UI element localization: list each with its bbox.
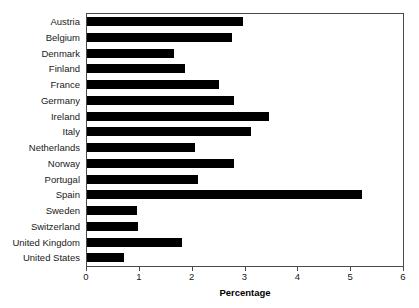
category-label: United States [23, 250, 80, 266]
bar [87, 127, 251, 136]
category-label: Switzerland [31, 219, 80, 235]
category-axis-labels: AustriaBelgiumDenmarkFinlandFranceGerman… [0, 14, 84, 266]
bar-row [87, 235, 404, 251]
bar-row [87, 61, 404, 77]
category-label: Austria [50, 14, 80, 30]
bar-row [87, 140, 404, 156]
bar-row [87, 46, 404, 62]
x-tick-label: 6 [400, 271, 405, 282]
bar [87, 206, 137, 215]
category-label: Portugal [45, 172, 80, 188]
x-tick-label: 2 [189, 271, 194, 282]
bar [87, 80, 219, 89]
bar [87, 143, 195, 152]
x-axis-title: Percentage [86, 287, 404, 298]
category-label: Sweden [46, 203, 80, 219]
category-label: Germany [41, 93, 80, 109]
bar-row [87, 156, 404, 172]
bar [87, 238, 182, 247]
bar [87, 253, 124, 262]
bar [87, 96, 234, 105]
x-tick-label: 4 [295, 271, 300, 282]
bar-row [87, 250, 404, 266]
bar [87, 175, 198, 184]
bar [87, 159, 234, 168]
category-label: Ireland [51, 109, 80, 125]
x-tick-label: 0 [83, 271, 88, 282]
bar-row [87, 77, 404, 93]
x-tick-label: 3 [242, 271, 247, 282]
category-label: France [50, 77, 80, 93]
bar [87, 49, 174, 58]
category-label: Denmark [41, 46, 80, 62]
category-label: Netherlands [29, 140, 80, 156]
category-label: United Kingdom [12, 235, 80, 251]
x-tick-label: 1 [136, 271, 141, 282]
bar-row [87, 30, 404, 46]
bar-row [87, 124, 404, 140]
bars-container [87, 14, 404, 266]
x-tick-label: 5 [348, 271, 353, 282]
bar-chart: AustriaBelgiumDenmarkFinlandFranceGerman… [0, 0, 419, 308]
bar-row [87, 203, 404, 219]
category-label: Spain [56, 187, 80, 203]
x-axis-ticks: 0123456 [86, 267, 404, 287]
category-label: Finland [49, 61, 80, 77]
bar-row [87, 109, 404, 125]
bar [87, 190, 362, 199]
bar [87, 222, 138, 231]
category-label: Belgium [46, 30, 80, 46]
bar-row [87, 14, 404, 30]
bar [87, 17, 243, 26]
bar-row [87, 187, 404, 203]
category-label: Italy [63, 124, 80, 140]
bar-row [87, 93, 404, 109]
category-label: Norway [48, 156, 80, 172]
bar [87, 33, 232, 42]
bar [87, 64, 185, 73]
bar-row [87, 172, 404, 188]
bar-row [87, 219, 404, 235]
bar [87, 112, 269, 121]
